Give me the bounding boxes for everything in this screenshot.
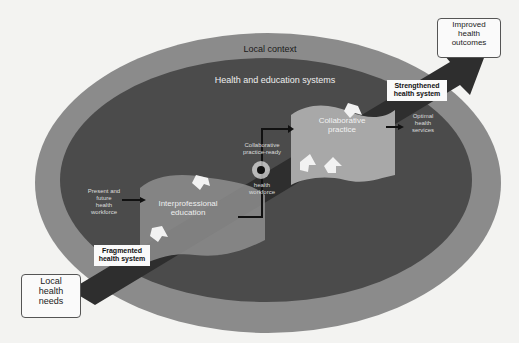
present-future-workforce-label: Present and future health workforce	[80, 188, 128, 216]
improved-outcomes-box: Improved health outcomes	[437, 18, 501, 58]
ipe-label: Interprofessional education	[148, 199, 228, 217]
collab-ready-label-top: Collaborative practice-ready	[232, 142, 292, 156]
fragmented-system-tag: Fragmented health system	[94, 245, 150, 266]
local-context-label: Local context	[230, 44, 310, 54]
collab-practice-label: Collaborative practice	[302, 116, 382, 134]
burst-icon	[252, 161, 270, 179]
collab-ready-label-bottom: health workforce	[240, 182, 284, 196]
local-health-needs-box: Local health needs	[21, 274, 81, 318]
optimal-services-label: Optimal health services	[403, 113, 443, 134]
strengthened-system-tag: Strengthened health system	[387, 80, 447, 101]
health-education-systems-label: Health and education systems	[195, 75, 355, 85]
